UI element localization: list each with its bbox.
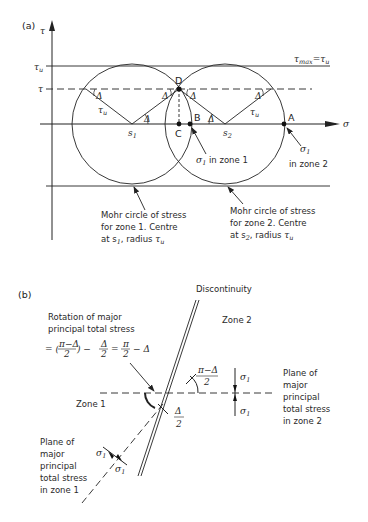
sigma1-zone2-top: σ1 <box>240 372 250 384</box>
point-a <box>282 122 287 127</box>
zone1-label: Zone 1 <box>76 399 106 409</box>
sigma-axis-arrow-icon <box>325 121 340 127</box>
discontinuity-line <box>141 300 199 476</box>
radius-line <box>225 89 271 124</box>
panel-b-label: (b) <box>18 289 31 300</box>
sigma1-zone1-top: σ1 <box>96 448 106 460</box>
discontinuity-line <box>138 300 196 476</box>
zone2-label: Zone 2 <box>222 315 252 325</box>
angle-bottom-den: 2 <box>175 419 182 429</box>
point-d-label: D <box>175 75 182 86</box>
plane-zone2-line2: major <box>283 380 308 390</box>
circle2-note-line1: Mohr circle of stress <box>230 206 316 216</box>
svg-text:2: 2 <box>100 349 107 359</box>
sigma1-zone1-bottom: σ1 <box>115 464 125 476</box>
svg-text:Δ: Δ <box>100 339 108 349</box>
sigma1-zone1-stress-line <box>103 447 127 465</box>
tau-axis-label: τ <box>40 26 46 36</box>
plane-zone2-line1: Plane of <box>283 368 318 378</box>
leader-circle1 <box>134 187 145 210</box>
radius-label-zone2: τu <box>250 107 259 119</box>
sigma1-zone2-note-b: in zone 2 <box>289 159 328 169</box>
circle2-note-line3: at s2, radius τu <box>230 230 293 242</box>
panel-a-label: (a) <box>22 20 35 31</box>
angle-delta: Δ <box>161 91 169 101</box>
s1-label: s1 <box>128 128 137 140</box>
leader-sigma1-zone2 <box>287 128 301 146</box>
radius-line <box>86 89 132 124</box>
rotation-leader <box>130 363 154 391</box>
svg-text:=: = <box>111 344 119 354</box>
plane-zone1-line4: total stress <box>40 473 88 483</box>
circle1-note-line2: for zone 1. Centre <box>101 222 178 232</box>
point-c <box>177 122 182 127</box>
point-b <box>188 122 193 127</box>
circle1-note-line1: Mohr circle of stress <box>101 210 187 220</box>
plane-zone1-line1: Plane of <box>40 437 75 447</box>
svg-text:π−Δ: π−Δ <box>58 339 79 349</box>
svg-text:= (: = ( <box>45 344 59 354</box>
rotation-formula: = ( π−Δ 2 ) − Δ 2 = π 2 − Δ <box>45 339 150 359</box>
angle-delta: Δ <box>95 91 103 101</box>
leader-sigma1-zone1 <box>192 128 206 154</box>
s2-label: s2 <box>223 128 232 140</box>
rotation-line2: principal total stress <box>48 324 135 334</box>
svg-text:− Δ: − Δ <box>133 344 150 354</box>
svg-text:2: 2 <box>122 349 129 359</box>
svg-text:π: π <box>122 339 130 349</box>
plane-zone1-line3: principal <box>40 461 77 471</box>
rotation-line1: Rotation of major <box>48 312 122 322</box>
svg-text:2: 2 <box>63 349 70 359</box>
leader-circle2 <box>228 187 243 204</box>
radius-line <box>132 89 179 124</box>
point-a-label: A <box>288 112 295 123</box>
point-b-label: B <box>194 112 201 123</box>
discontinuity-label: Discontinuity <box>196 284 252 294</box>
tau-max-label: τmax=τu <box>294 54 329 66</box>
angle-delta: Δ <box>254 91 262 101</box>
angle-delta: Δ <box>207 114 215 124</box>
angle-bottom-num: Δ <box>174 406 182 416</box>
angle-top-den: 2 <box>203 377 210 387</box>
plane-zone1-dashed <box>82 404 163 503</box>
angle-arc-bottom <box>145 393 155 408</box>
sigma1-zone2-note-a: σ1 <box>300 144 310 156</box>
sigma-axis-label: σ <box>343 119 350 129</box>
plane-zone2-line3: principal <box>283 392 320 402</box>
tau-label: τ <box>38 84 44 94</box>
angle-delta: Δ <box>189 91 197 101</box>
plane-zone2-line5: in zone 2 <box>283 416 322 426</box>
mohr-circle-diagram: (a) τ σ τu τmax=τu τ Δ Δ Δ Δ Δ Δ τu τu D… <box>0 0 368 522</box>
sigma1-zone1-note: σ1 in zone 1 <box>196 155 248 167</box>
radius-line <box>179 89 225 124</box>
point-c-label: C <box>175 128 182 139</box>
circle2-note-line2: for zone 2. Centre <box>230 218 307 228</box>
plane-zone1-line5: in zone 1 <box>40 485 79 495</box>
plane-zone1-line2: major <box>40 449 65 459</box>
angle-top-num: π−Δ <box>197 365 218 375</box>
svg-text:) −: ) − <box>76 344 91 354</box>
circle1-note-line3: at s1, radius τu <box>101 234 164 246</box>
radius-label-zone1: τu <box>98 105 107 117</box>
sigma1-zone2-bottom: σ1 <box>240 406 250 418</box>
plane-zone2-line4: total stress <box>283 404 331 414</box>
point-d <box>176 86 181 91</box>
tau-axis-arrow-icon <box>49 20 55 31</box>
tau-u-label: τu <box>34 62 43 74</box>
angle-delta: Δ <box>143 114 151 124</box>
